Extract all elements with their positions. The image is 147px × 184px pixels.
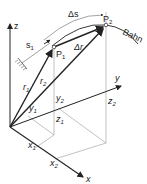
z1-label: z1: [55, 114, 64, 125]
x1-label: x1: [27, 140, 36, 151]
z-axis-label: z: [14, 21, 19, 31]
x-axis: [10, 127, 83, 177]
path-label: Bahn: [121, 27, 144, 45]
projection-lines: [28, 26, 106, 159]
delta-r-label: Δr: [73, 42, 84, 52]
r1-label: r1: [23, 82, 29, 93]
r2-label: r2: [40, 76, 47, 87]
r2-vector: [10, 29, 103, 127]
s1-label: s1: [26, 40, 35, 51]
p1-label: P1: [56, 49, 66, 60]
kinematics-diagram: z y x P1 P2 Bahn Δs s1 r1 r2 Δr y1 y2 z1…: [0, 0, 147, 184]
delta-s-label: Δs: [68, 9, 79, 19]
y-axis-label: y: [114, 73, 120, 83]
z2-label: z2: [107, 96, 117, 107]
y1-label: y1: [28, 103, 37, 114]
y2-label: y2: [55, 93, 65, 104]
x-axis-label: x: [85, 174, 91, 184]
p2-label: P2: [103, 14, 113, 25]
